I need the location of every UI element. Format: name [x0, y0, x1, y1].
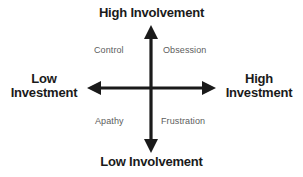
quadrant-label-obsession: Obsession — [163, 45, 206, 55]
axis-label-high-investment: High Investment — [217, 72, 301, 100]
quadrant-label-frustration: Frustration — [161, 116, 205, 126]
axis-label-low-investment: Low Investment — [2, 72, 86, 100]
arrowhead-down-icon — [144, 139, 158, 153]
quadrant-diagram: High Involvement Low Involvement Low Inv… — [0, 0, 303, 177]
arrowhead-left-icon — [87, 81, 101, 95]
axis-label-high-involvement: High Involvement — [0, 6, 303, 20]
quadrant-label-apathy: Apathy — [95, 116, 124, 126]
quadrant-label-control: Control — [94, 45, 124, 55]
arrowhead-up-icon — [144, 25, 158, 39]
axis-label-low-involvement: Low Involvement — [0, 155, 303, 169]
arrowhead-right-icon — [202, 81, 216, 95]
